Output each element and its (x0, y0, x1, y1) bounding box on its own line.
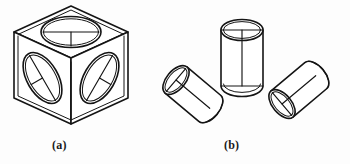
caption-b: (b) (224, 138, 239, 153)
cylinder-vertical (221, 20, 263, 97)
cylinder-tilted-right (264, 57, 334, 124)
caption-a: (a) (52, 138, 67, 153)
figure-container: .ln { fill:none; stroke:#141414; stroke-… (0, 0, 350, 164)
top-face-circle (41, 17, 101, 48)
cylinder-tilted-left (158, 61, 228, 128)
cube-assembly (14, 6, 128, 124)
